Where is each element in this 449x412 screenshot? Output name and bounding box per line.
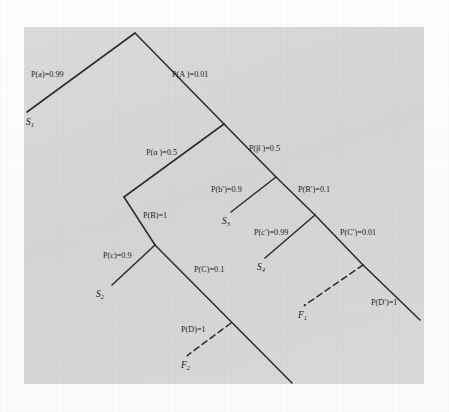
label-p-beta: P(β )=0.5	[249, 144, 280, 153]
edge-n7-to-f1-dashed	[305, 265, 363, 305]
label-p-c-lower: P(c)=0.9	[103, 251, 132, 260]
edge-n5-to-n7	[315, 215, 363, 265]
node-s3-subscript: 3	[226, 220, 231, 227]
node-f2-subscript: 2	[187, 364, 191, 371]
label-p-C-prime: P(C′)=0.01	[340, 228, 376, 237]
label-p-C-upper: P(C)=0.1	[194, 265, 224, 274]
label-p-D-prime: P(D′)=1	[371, 298, 397, 307]
edge-n4-to-s3	[231, 177, 276, 212]
node-label-f2: F2	[180, 360, 191, 371]
node-label-s4: S4	[257, 262, 266, 273]
node-s4-subscript: 4	[262, 266, 266, 273]
node-s2-subscript: 2	[101, 293, 105, 300]
label-p-a-lower: P(a)=0.99	[31, 70, 64, 79]
label-p-alpha: P(α )=0.5	[146, 148, 177, 157]
node-s1-subscript: 1	[31, 121, 34, 128]
edge-n2-to-n3	[124, 124, 224, 197]
edge-n7-to-tail	[363, 265, 420, 320]
event-tree-figure: P(a)=0.99 P(A )=0.01 P(α )=0.5 P(β )=0.5…	[0, 0, 449, 412]
label-p-A-upper: P(A )=0.01	[172, 70, 208, 79]
node-f1-subscript: 1	[304, 314, 307, 321]
label-p-B-upper: P(B)=1	[143, 211, 167, 220]
edge-n3-to-n6	[124, 197, 155, 245]
node-label-s3: S3	[222, 216, 231, 227]
node-label-s2: S2	[96, 289, 105, 300]
label-p-B-prime: P(B′)=0.1	[298, 185, 330, 194]
f1-terminal-dot	[304, 305, 306, 307]
node-label-f1: F1	[297, 310, 307, 321]
label-p-D-upper: P(D)=1	[181, 325, 206, 334]
node-label-s1: S1	[26, 117, 34, 128]
figure-page: P(a)=0.99 P(A )=0.01 P(α )=0.5 P(β )=0.5…	[0, 0, 449, 412]
label-p-c-prime: P(c′)=0.99	[254, 228, 288, 237]
edge-n4-to-n5	[276, 177, 315, 215]
f2-terminal-dot	[187, 355, 189, 357]
label-p-b-prime: P(b′)=0.9	[211, 185, 242, 194]
